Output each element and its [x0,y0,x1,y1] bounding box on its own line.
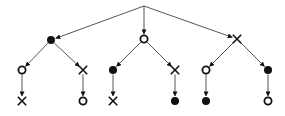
edge-root-L [56,6,144,38]
filled-dot-icon [47,36,55,44]
tree-svg [0,0,285,116]
filled-dot-icon [202,97,210,105]
cross-icon [109,97,117,105]
edge-L-LR [54,43,79,67]
edge-M-ML [117,42,141,66]
cross-icon [79,66,87,74]
cross-icon [233,35,241,43]
game-tree-diagram [0,0,285,116]
filled-dot-icon [109,66,117,74]
edge-R-RL [210,42,234,66]
open-circle-icon [202,66,209,73]
edge-root-R [144,6,232,37]
edge-L-LL [25,43,47,66]
filled-dot-icon [264,66,272,74]
edge-R-RR [240,42,264,66]
filled-dot-icon [171,97,179,105]
cross-icon [18,97,26,105]
open-circle-icon [140,35,147,42]
open-circle-icon [264,97,271,104]
open-circle-icon [18,66,25,73]
open-circle-icon [79,97,86,104]
cross-icon [171,66,179,74]
edge-M-MR [147,42,171,66]
nodes-group [18,35,272,105]
edges-group [22,6,268,96]
